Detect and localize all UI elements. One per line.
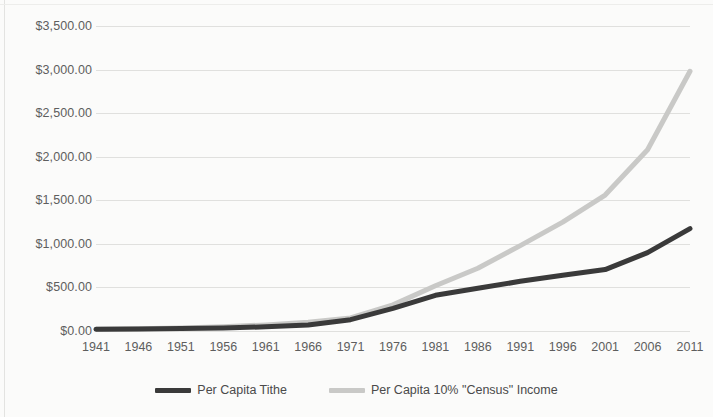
line-chart: $0.00$500.00$1,000.00$1,500.00$2,000.00$… — [0, 0, 713, 417]
x-axis-tick-label: 1991 — [498, 340, 542, 354]
x-axis-tick-label: 1966 — [286, 340, 330, 354]
x-axis-tick-label: 1986 — [456, 340, 500, 354]
y-axis-tick-label: $3,000.00 — [4, 63, 92, 77]
legend-swatch-icon — [329, 388, 365, 393]
x-axis-tick-label: 1946 — [116, 340, 160, 354]
y-axis-tick-label: $2,000.00 — [4, 150, 92, 164]
legend-swatch-icon — [155, 388, 191, 393]
x-axis-tick-label: 1981 — [413, 340, 457, 354]
y-axis-tick-label: $2,500.00 — [4, 106, 92, 120]
legend-item[interactable]: Per Capita Tithe — [155, 383, 287, 397]
series-line — [96, 229, 690, 330]
y-axis-tick-label: $1,500.00 — [4, 193, 92, 207]
y-axis-tick-label: $3,500.00 — [4, 19, 92, 33]
x-axis-tick-label: 1996 — [541, 340, 585, 354]
legend-label: Per Capita Tithe — [197, 383, 287, 397]
series-lines — [96, 26, 690, 331]
gridline-000 — [96, 331, 690, 332]
x-axis-tick-label: 2011 — [668, 340, 712, 354]
x-axis-tick-label: 2001 — [583, 340, 627, 354]
series-line — [96, 71, 690, 329]
legend-item[interactable]: Per Capita 10% "Census" Income — [329, 383, 558, 397]
y-axis-tick-label: $0.00 — [4, 324, 92, 338]
x-axis-tick-label: 1951 — [159, 340, 203, 354]
x-axis-tick-label: 1976 — [371, 340, 415, 354]
x-axis-tick-label: 1941 — [74, 340, 118, 354]
y-axis-tick-label: $1,000.00 — [4, 237, 92, 251]
x-axis-tick-label: 1961 — [244, 340, 288, 354]
chart-legend: Per Capita TithePer Capita 10% "Census" … — [0, 383, 713, 397]
legend-label: Per Capita 10% "Census" Income — [371, 383, 558, 397]
chart-screenshot: $0.00$500.00$1,000.00$1,500.00$2,000.00$… — [0, 0, 713, 417]
x-axis-tick-label: 1971 — [329, 340, 373, 354]
x-axis-tick-label: 1956 — [201, 340, 245, 354]
x-axis-tick-label: 2006 — [626, 340, 670, 354]
plot-area — [96, 26, 690, 331]
y-axis: $0.00$500.00$1,000.00$1,500.00$2,000.00$… — [0, 0, 92, 417]
y-axis-tick-label: $500.00 — [4, 280, 92, 294]
